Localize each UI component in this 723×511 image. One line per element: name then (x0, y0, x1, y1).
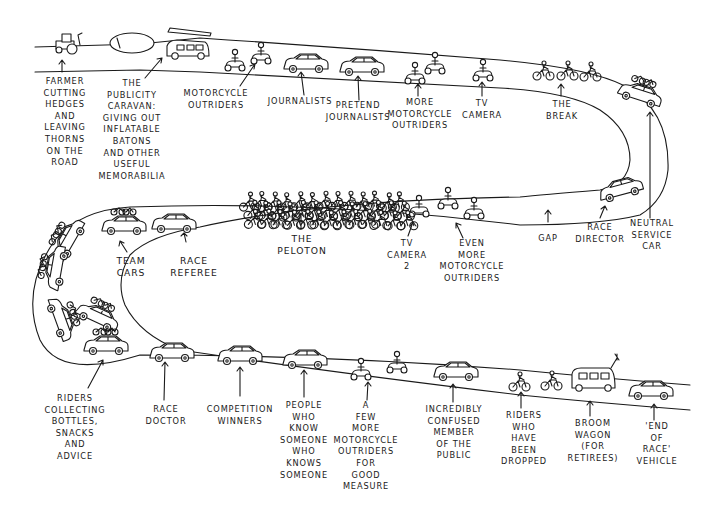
tractor-icon (56, 33, 82, 54)
motorcycle-icon (464, 197, 484, 219)
peloton-rider-icon (258, 209, 279, 228)
arrow-icon (587, 401, 593, 416)
arrow-icon (647, 112, 653, 218)
label-the-break: The break (530, 99, 594, 122)
arrow-icon (237, 367, 243, 396)
label-broom-wagon: Broom wagon (for retirees) (560, 418, 626, 464)
label-tv-camera-2: TV camera 2 (380, 238, 434, 273)
arrow-icon (518, 392, 524, 408)
caravan-van-icon (167, 28, 211, 59)
label-team-cars: Team cars (106, 255, 156, 280)
race-doctor-car-icon (150, 343, 194, 362)
motorcycle-icon (251, 42, 271, 64)
team-car-icon (102, 208, 146, 235)
arrow-icon (119, 241, 127, 252)
label-publicity-caravan: The publicity caravan: giving out inflat… (92, 78, 172, 182)
peloton-icon (240, 191, 418, 230)
team-car-icon (45, 292, 85, 342)
motorcycle-icon (405, 62, 425, 84)
pretend-journalist-car-icon (340, 57, 384, 76)
arrow-icon (181, 233, 187, 242)
arrow-icon (59, 60, 65, 72)
journalist-car-icon (284, 54, 328, 73)
race-director-car-icon (597, 174, 644, 203)
neutral-service-car-icon (616, 71, 666, 110)
inflatable-baton-icon (110, 33, 154, 53)
label-even-more-motorcycle-outriders: Even more motorcycle outriders (432, 238, 512, 284)
label-a-few-more-outriders: A few more motorcycle outriders for good… (326, 400, 406, 493)
label-farmer: Farmer cutting hedges and leaving thorns… (30, 76, 100, 169)
tv-camera-motorcycle-icon (473, 59, 493, 81)
label-motorcycle-outriders: Motorcycle outriders (176, 88, 256, 111)
arrow-icon (479, 82, 485, 96)
label-dropped-riders: Riders who have been dropped (494, 410, 554, 468)
label-race-referee: Race referee (162, 255, 226, 280)
label-the-peloton: The peloton (270, 233, 334, 258)
label-incredibly-confused: Incredibly confused member of the public (412, 404, 496, 462)
label-riders-collecting: Riders collecting bottles, snacks and ad… (38, 393, 112, 463)
motorcycle-icon (225, 49, 245, 71)
arrow-icon (450, 384, 456, 402)
motorcycle-icon (351, 358, 371, 380)
race-referee-car-icon (152, 214, 196, 233)
competition-winners-car-icon (218, 346, 262, 365)
arrow-icon (456, 223, 463, 238)
team-car-icon (84, 328, 128, 355)
label-race-doctor: Race doctor (136, 404, 196, 427)
tv-camera-2-motorcycle-icon (409, 195, 429, 217)
arrow-icon (301, 370, 307, 397)
arrow-icon (298, 72, 304, 95)
arrow-icon (558, 84, 564, 96)
broom-wagon-icon (572, 354, 619, 391)
label-tv-camera: TV camera (450, 98, 514, 121)
people-car-icon (283, 350, 327, 369)
label-race-director: Race director (568, 222, 632, 245)
end-of-race-car-icon (629, 381, 673, 400)
team-car-icon (74, 292, 125, 335)
arrow-icon (355, 76, 361, 100)
arrow-icon (415, 84, 421, 96)
arrow-icon (651, 404, 657, 420)
arrow-icon (145, 58, 162, 78)
arrow-icon (365, 382, 371, 400)
dropped-rider-icon (509, 372, 530, 391)
arrow-icon (600, 206, 607, 218)
peloton-rider-icon (240, 192, 261, 211)
label-end-of-race-vehicle: 'End of race' vehicle (624, 421, 690, 467)
label-more-motorcycle-outriders: More motorcycle outriders (380, 97, 460, 132)
label-gap: Gap (528, 233, 568, 245)
arrow-icon (545, 210, 551, 222)
arrow-icon (162, 362, 168, 400)
